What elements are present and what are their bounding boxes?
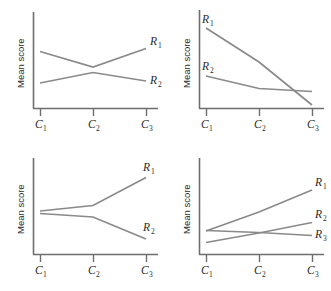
category-label-c1-base: C: [201, 118, 209, 130]
panel-bottom-right: Mean score R 1 R 2 R 3 C 1 C 2 C 3: [166, 146, 331, 291]
category-label-c1: C 1: [35, 118, 47, 133]
series-label-r1-sub: 1: [323, 182, 327, 191]
category-label-c1-base: C: [35, 264, 43, 276]
series-label-r3-base: R: [314, 228, 322, 240]
category-label-c3-sub: 3: [149, 270, 153, 279]
series-label-r2-base: R: [201, 60, 209, 72]
series-line-r1: [40, 178, 146, 212]
series-label-r1-sub: 1: [151, 167, 155, 176]
category-label-c2-base: C: [88, 264, 96, 276]
category-label-c3-base: C: [307, 264, 315, 276]
category-label-c3: C 3: [307, 118, 319, 133]
category-label-c3-sub: 3: [315, 270, 319, 279]
series-line-r3: [206, 231, 312, 236]
category-label-c3-base: C: [141, 118, 149, 130]
series-line-r2: [40, 73, 146, 84]
category-label-c2-sub: 2: [96, 124, 100, 133]
series-label-r2-sub: 2: [210, 66, 214, 75]
category-label-c2-sub: 2: [96, 270, 100, 279]
category-label-c3: C 3: [141, 264, 153, 279]
series-line-r2: [206, 76, 312, 92]
y-axis-label: Mean score: [181, 184, 192, 234]
series-label-r2: R 2: [314, 208, 327, 223]
figure-container: Mean score R 1 R 2 C 1 C 2 C 3: [0, 0, 331, 291]
series-label-r1: R 1: [314, 176, 327, 191]
category-label-c2: C 2: [254, 264, 266, 279]
series-label-r3-sub: 3: [323, 234, 327, 243]
y-axis-label: Mean score: [181, 38, 192, 88]
series-label-r1-base: R: [314, 176, 322, 188]
category-label-c3: C 3: [307, 264, 319, 279]
category-label-c2-base: C: [88, 118, 96, 130]
series-line-r2: [40, 214, 146, 240]
series-label-r1-base: R: [201, 13, 209, 25]
category-label-c2-base: C: [254, 264, 262, 276]
category-label-c1-sub: 1: [209, 270, 213, 279]
category-label-c1: C 1: [35, 264, 47, 279]
category-label-c1-sub: 1: [209, 124, 213, 133]
category-label-c1: C 1: [201, 118, 213, 133]
panel-top-right: Mean score R 1 R 2 C 1 C 2 C 3: [166, 0, 331, 146]
category-label-c3-base: C: [141, 264, 149, 276]
series-label-r1: R 1: [149, 35, 162, 50]
category-label-c2-sub: 2: [262, 124, 266, 133]
series-label-r2-sub: 2: [323, 214, 327, 223]
category-label-c1-base: C: [201, 264, 209, 276]
series-label-r2-sub: 2: [151, 227, 155, 236]
series-line-r1: [206, 28, 312, 105]
series-label-r2: R 2: [142, 221, 155, 236]
series-label-r1-sub: 1: [158, 41, 162, 50]
series-label-r1: R 1: [201, 13, 214, 28]
panel-bottom-left: Mean score R 1 R 2 C 1 C 2 C 3: [0, 146, 166, 291]
category-label-c2-base: C: [254, 118, 262, 130]
series-label-r1-base: R: [149, 35, 157, 47]
category-label-c1-sub: 1: [43, 124, 47, 133]
category-label-c1-sub: 1: [43, 270, 47, 279]
category-label-c2: C 2: [254, 118, 266, 133]
category-label-c1: C 1: [201, 264, 213, 279]
series-label-r2: R 2: [149, 74, 162, 89]
panel-top-left: Mean score R 1 R 2 C 1 C 2 C 3: [0, 0, 166, 146]
category-label-c2: C 2: [88, 264, 100, 279]
category-label-c3: C 3: [141, 118, 153, 133]
category-label-c2: C 2: [88, 118, 100, 133]
y-axis-label: Mean score: [15, 38, 26, 88]
series-label-r1-base: R: [142, 161, 150, 173]
series-label-r3: R 3: [314, 228, 327, 243]
series-label-r2-base: R: [142, 221, 150, 233]
series-label-r2-base: R: [314, 208, 322, 220]
category-label-c1-base: C: [35, 118, 43, 130]
y-axis-label: Mean score: [15, 184, 26, 234]
series-line-r1: [40, 49, 146, 68]
series-label-r2-sub: 2: [158, 80, 162, 89]
category-label-c3-sub: 3: [149, 124, 153, 133]
series-label-r1-sub: 1: [210, 19, 214, 28]
series-label-r2-base: R: [149, 74, 157, 86]
series-label-r1: R 1: [142, 161, 155, 176]
category-label-c3-sub: 3: [315, 124, 319, 133]
series-label-r2: R 2: [201, 60, 214, 75]
category-label-c2-sub: 2: [262, 270, 266, 279]
category-label-c3-base: C: [307, 118, 315, 130]
